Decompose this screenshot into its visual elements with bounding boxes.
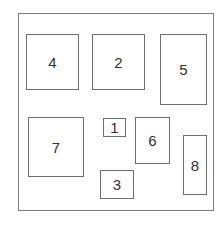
box-label: 2	[114, 54, 122, 71]
box-4: 4	[26, 34, 79, 90]
box-label: 5	[179, 61, 187, 78]
box-label: 7	[52, 139, 60, 156]
box-label: 4	[48, 54, 56, 71]
box-8: 8	[183, 135, 207, 195]
box-label: 8	[191, 157, 199, 174]
box-3: 3	[100, 170, 134, 199]
box-7: 7	[28, 117, 84, 177]
box-label: 6	[148, 132, 156, 149]
box-6: 6	[135, 117, 170, 164]
box-label: 3	[113, 176, 121, 193]
box-2: 2	[92, 34, 145, 90]
box-label: 1	[110, 119, 118, 136]
box-5: 5	[160, 34, 207, 105]
box-1: 1	[103, 118, 126, 137]
